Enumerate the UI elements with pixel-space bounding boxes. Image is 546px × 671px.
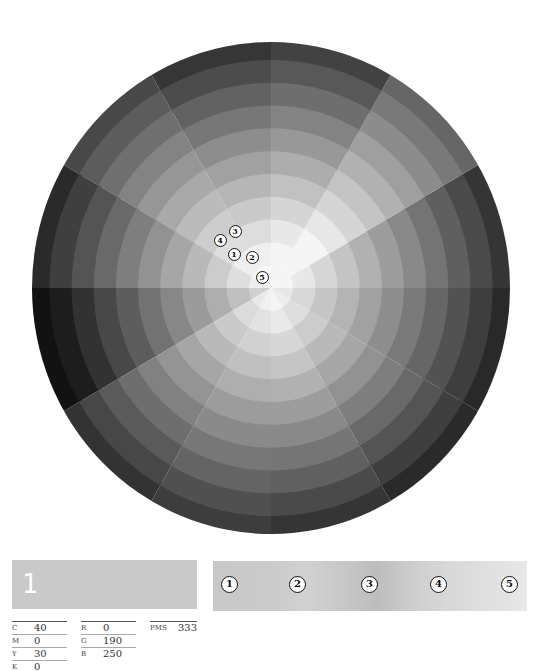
rgb-row-g: G190 [81, 635, 136, 648]
pms-value: 333 [172, 622, 197, 634]
cmyk-key: K [12, 661, 34, 671]
rgb-key: R [81, 622, 103, 634]
wheel-marker-2: 2 [246, 251, 259, 264]
swatch-number: 1 [22, 568, 39, 600]
cmyk-row-c: C40 [12, 622, 67, 635]
pms-table: PMS333 [150, 621, 197, 634]
wheel-marker-1: 1 [228, 248, 241, 261]
rgb-key: B [81, 648, 103, 660]
color-swatch: 1 [12, 560, 197, 609]
cmyk-key: M [12, 635, 34, 647]
pms-key: PMS [150, 622, 172, 634]
cmyk-value: 30 [34, 648, 67, 660]
rgb-value: 190 [103, 635, 136, 647]
wheel-marker-4: 4 [214, 234, 227, 247]
tone-gradient-bar: 12345 [213, 561, 527, 611]
cmyk-row-m: M0 [12, 635, 67, 648]
wheel-marker-5: 5 [256, 271, 269, 284]
cmyk-value: 0 [34, 635, 67, 647]
cmyk-key: C [12, 622, 34, 634]
rgb-value: 250 [103, 648, 136, 660]
cmyk-row-k: K0 [12, 661, 67, 671]
pms-row: PMS333 [150, 622, 197, 634]
gradient-marker-1: 1 [221, 576, 238, 593]
gradient-marker-5: 5 [501, 576, 518, 593]
rgb-row-b: B250 [81, 648, 136, 660]
rgb-row-r: R0 [81, 622, 136, 635]
rgb-table: R0 G190 B250 [81, 621, 136, 660]
cmyk-table: C40 M0 Y30 K0 [12, 621, 67, 671]
gradient-marker-2: 2 [289, 576, 306, 593]
cmyk-value: 0 [34, 661, 67, 671]
gradient-marker-4: 4 [430, 576, 447, 593]
cmyk-row-y: Y30 [12, 648, 67, 661]
cmyk-value: 40 [34, 622, 67, 634]
rgb-value: 0 [103, 622, 136, 634]
wheel-marker-3: 3 [229, 225, 242, 238]
rgb-key: G [81, 635, 103, 647]
tone-wheel [0, 0, 546, 550]
cmyk-key: Y [12, 648, 34, 660]
gradient-marker-3: 3 [361, 576, 378, 593]
